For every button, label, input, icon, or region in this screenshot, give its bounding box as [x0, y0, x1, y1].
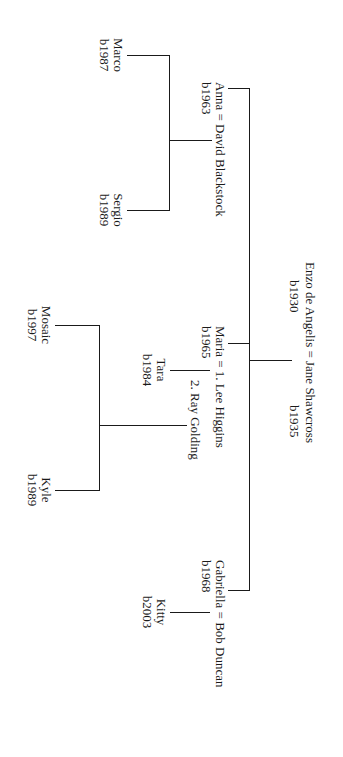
gabriella-birth: b1968 — [199, 560, 213, 593]
anna-drop-line — [228, 88, 250, 89]
root-person2-birth: b1935 — [287, 405, 301, 438]
tara-drop-line — [170, 370, 210, 371]
kyle-birth: b1989 — [25, 474, 39, 507]
marco-drop-line — [127, 55, 170, 56]
tara-name: Tara — [154, 359, 168, 382]
kyle-drop-line — [55, 490, 100, 491]
mosaic-name: Mosaic — [39, 306, 53, 344]
family-tree-diagram: Enzo de Angelis = Jane Shawcross b1930 b… — [0, 0, 343, 757]
anna-birth: b1963 — [199, 82, 213, 115]
gabriella-couple-label: Gabriella = Bob Duncan — [213, 560, 227, 688]
ray-children-line — [99, 325, 100, 491]
sergio-drop-line — [127, 210, 170, 211]
mosaic-drop-line — [55, 325, 100, 326]
maria-drop-line — [228, 343, 250, 344]
root-couple-label: Enzo de Angelis = Jane Shawcross — [303, 262, 317, 443]
anna-children-line — [169, 55, 170, 211]
kyle-name: Kyle — [39, 477, 53, 502]
anna-children-descent — [170, 140, 212, 141]
tara-birth: b1984 — [140, 354, 154, 387]
anna-couple-label: Anna = David Blackstock — [213, 82, 227, 217]
gabriella-drop-line — [228, 590, 250, 591]
kitty-name: Kitty — [154, 599, 168, 626]
root-person1-birth: b1930 — [287, 280, 301, 313]
sergio-name: Sergio — [111, 193, 125, 227]
kitty-birth: b2003 — [140, 596, 154, 629]
maria-couple-label: Maria = 1. Lee Higgins — [213, 326, 227, 448]
marco-name: Marco — [111, 38, 125, 72]
root-descent-line — [250, 360, 292, 361]
mosaic-birth: b1997 — [25, 309, 39, 342]
kitty-drop-line — [170, 612, 210, 613]
maria-second-spouse: 2. Ray Golding — [188, 380, 202, 460]
ray-children-descent — [100, 425, 187, 426]
main-sibling-line — [249, 88, 250, 591]
maria-birth: b1965 — [199, 326, 213, 359]
sergio-birth: b1989 — [97, 194, 111, 227]
marco-birth: b1987 — [97, 39, 111, 72]
